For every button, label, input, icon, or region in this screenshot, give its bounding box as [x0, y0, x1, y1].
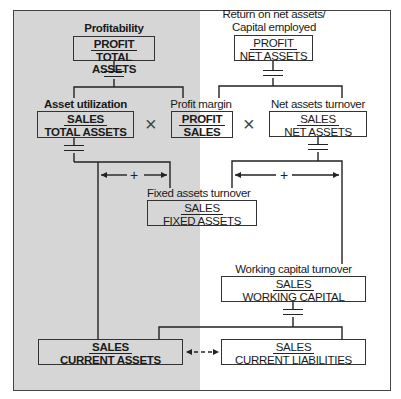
plus-icon: +	[280, 168, 288, 182]
denominator: TOTAL ASSETS	[38, 126, 133, 138]
asset-utilization-ratio-box: SALES TOTAL ASSETS	[37, 111, 134, 138]
denominator: CURRENT ASSETS	[39, 354, 182, 366]
profitability-ratio-box: PROFIT TOTAL ASSETS	[73, 36, 155, 61]
numerator: SALES	[297, 113, 339, 126]
denominator: NET ASSETS	[235, 50, 312, 62]
plus-icon: +	[130, 168, 138, 182]
denominator: SALES	[172, 126, 232, 138]
current-assets-ratio-box: SALES CURRENT ASSETS	[38, 339, 183, 365]
net-assets-turnover-ratio-box: SALES NET ASSETS	[269, 111, 367, 137]
equals-icon	[64, 145, 84, 151]
label-line-1: Return on net assets/	[222, 8, 325, 20]
denominator: TOTAL ASSETS	[74, 51, 154, 75]
denominator: NET ASSETS	[270, 126, 366, 138]
multiply-icon: ×	[145, 114, 157, 134]
profit-margin-ratio-box: PROFIT SALES	[171, 111, 233, 138]
numerator: PROFIT	[250, 37, 296, 50]
equals-icon	[283, 309, 303, 315]
profit-margin-label: Profit margin	[166, 98, 236, 110]
denominator: FIXED ASSETS	[148, 215, 256, 227]
fixed-assets-turnover-label: Fixed assets turnover	[147, 187, 257, 199]
net-assets-turnover-label: Net assets turnover	[265, 98, 371, 110]
denominator: CURRENT LIABILITIES	[222, 354, 365, 366]
label-line-2: Capital employed	[232, 21, 316, 33]
profitability-label: Profitability	[73, 22, 155, 34]
numerator: PROFIT	[179, 113, 225, 126]
return-on-net-assets-ratio-box: PROFIT NET ASSETS	[234, 35, 313, 61]
numerator: SALES	[89, 341, 132, 354]
numerator: SALES	[273, 341, 315, 354]
asset-utilization-label: Asset utilization	[37, 98, 134, 110]
equals-icon	[308, 144, 328, 150]
denominator: WORKING CAPITAL	[222, 291, 365, 303]
numerator: SALES	[181, 202, 223, 215]
numerator: SALES	[64, 113, 107, 126]
fixed-assets-turnover-ratio-box: SALES FIXED ASSETS	[147, 200, 257, 226]
working-capital-turnover-ratio-box: SALES WORKING CAPITAL	[221, 276, 366, 302]
multiply-icon: ×	[243, 114, 255, 134]
numerator: PROFIT	[91, 38, 137, 51]
current-liabilities-ratio-box: SALES CURRENT LIABILITIES	[221, 339, 366, 365]
working-capital-turnover-label: Working capital turnover	[221, 263, 366, 275]
return-on-net-assets-label: Return on net assets/ Capital employed	[222, 8, 326, 34]
numerator: SALES	[273, 278, 315, 291]
equals-icon	[263, 70, 283, 76]
